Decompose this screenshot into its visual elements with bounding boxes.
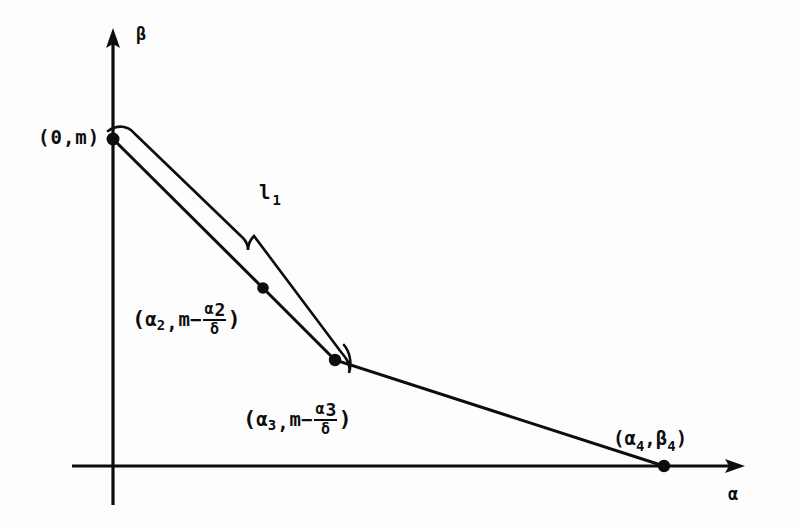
alpha-symbol: α bbox=[145, 310, 156, 329]
fraction-alpha3-over-delta: α3 δ bbox=[314, 399, 338, 438]
point-marker-a3 bbox=[329, 354, 341, 366]
paren-open: ( bbox=[132, 308, 145, 330]
alpha-symbol: α bbox=[624, 427, 635, 449]
point-marker-0m bbox=[107, 133, 120, 146]
segment-label-subscript: 1 bbox=[272, 192, 280, 208]
comma: , bbox=[165, 313, 178, 332]
numerator-alpha: α bbox=[316, 400, 325, 418]
numerator-alpha: α bbox=[205, 300, 214, 318]
point-label-0m: (0,m) bbox=[38, 128, 100, 147]
fraction-denominator: δ bbox=[210, 322, 219, 338]
numerator-subscript: 3 bbox=[326, 399, 337, 420]
segment-label-l1: l1 bbox=[259, 183, 279, 202]
point-label-a4: (α4,β4) bbox=[613, 429, 687, 448]
point-marker-a2 bbox=[257, 282, 269, 294]
fraction-numerator: α2 bbox=[203, 299, 227, 318]
comma: , bbox=[644, 427, 655, 449]
m-symbol: m bbox=[179, 310, 190, 329]
alpha-subscript: 2 bbox=[157, 318, 165, 332]
figure-canvas: β α (0,m) l1 ( α 2 , m − α2 δ ) ( α 3 , … bbox=[0, 0, 802, 528]
point-marker-a4 bbox=[658, 460, 670, 472]
alpha-subscript: 4 bbox=[636, 438, 644, 454]
numerator-subscript: 2 bbox=[215, 299, 226, 320]
segment-label-letter: l bbox=[259, 181, 270, 203]
alpha-subscript: 3 bbox=[268, 418, 276, 432]
paren-close: ) bbox=[338, 408, 351, 430]
paren-open: ( bbox=[243, 408, 256, 430]
fraction-denominator: δ bbox=[321, 422, 330, 438]
point-label-a3: ( α 3 , m − α3 δ ) bbox=[243, 400, 352, 439]
beta-subscript: 4 bbox=[667, 438, 675, 454]
point-label-a2: ( α 2 , m − α2 δ ) bbox=[132, 300, 241, 339]
minus-symbol: − bbox=[301, 410, 312, 429]
minus-symbol: − bbox=[190, 310, 201, 329]
m-symbol: m bbox=[290, 410, 301, 429]
y-axis bbox=[106, 28, 120, 505]
fraction-numerator: α3 bbox=[314, 399, 338, 418]
fraction-alpha2-over-delta: α2 δ bbox=[203, 299, 227, 338]
paren-close: ) bbox=[227, 308, 240, 330]
comma: , bbox=[276, 413, 289, 432]
alpha-symbol: α bbox=[256, 410, 267, 429]
beta-symbol: β bbox=[656, 427, 667, 449]
x-axis-label: α bbox=[728, 486, 738, 503]
paren-close: ) bbox=[676, 427, 687, 449]
y-axis-label: β bbox=[136, 26, 146, 43]
paren-open: ( bbox=[613, 427, 624, 449]
